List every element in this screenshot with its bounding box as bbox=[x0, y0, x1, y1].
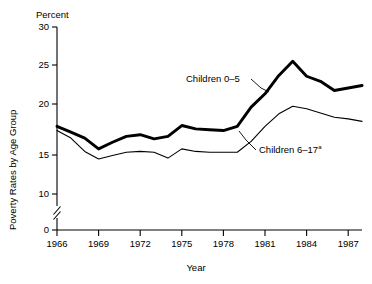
y-tick-label-20: 20 bbox=[38, 98, 49, 109]
y-unit-label: Percent bbox=[36, 9, 69, 20]
x-tick-label-1987: 1987 bbox=[338, 238, 359, 249]
x-tick-label-1981: 1981 bbox=[254, 238, 275, 249]
x-tick-label-1975: 1975 bbox=[171, 238, 192, 249]
x-tick-group: 1966 1969 1972 1975 1978 1981 1984 1987 bbox=[46, 230, 358, 249]
poverty-rates-line-chart: Percent Poverty Rates by Age Group Year … bbox=[0, 0, 372, 284]
y-tick-label-15: 15 bbox=[38, 149, 49, 160]
y-tick-label-30: 30 bbox=[38, 21, 49, 32]
y-tick-label-10: 10 bbox=[38, 188, 49, 199]
x-tick-label-1969: 1969 bbox=[88, 238, 109, 249]
x-tick-label-1984: 1984 bbox=[296, 238, 317, 249]
y-tick-label-0: 0 bbox=[44, 224, 49, 235]
x-tick-label-1966: 1966 bbox=[46, 238, 67, 249]
x-tick-label-1978: 1978 bbox=[213, 238, 234, 249]
series-annotation-children-6-17-text: Children 6–17 bbox=[259, 144, 318, 155]
series-annotation-children-6-17: Children 6–17a bbox=[259, 144, 322, 155]
chart-canvas: Percent Poverty Rates by Age Group Year … bbox=[0, 0, 372, 284]
y-axis-title: Poverty Rates by Age Group bbox=[7, 110, 18, 230]
series-annotation-children-0-5: Children 0–5 bbox=[186, 73, 240, 84]
y-tick-label-25: 25 bbox=[38, 59, 49, 70]
x-axis-title: Year bbox=[186, 262, 205, 273]
x-tick-label-1972: 1972 bbox=[130, 238, 151, 249]
leader-line-children-6-17 bbox=[239, 131, 256, 150]
y-tick-group: 30 25 20 15 10 0 bbox=[38, 21, 57, 235]
series-annotation-children-6-17-superscript: a bbox=[318, 144, 322, 150]
